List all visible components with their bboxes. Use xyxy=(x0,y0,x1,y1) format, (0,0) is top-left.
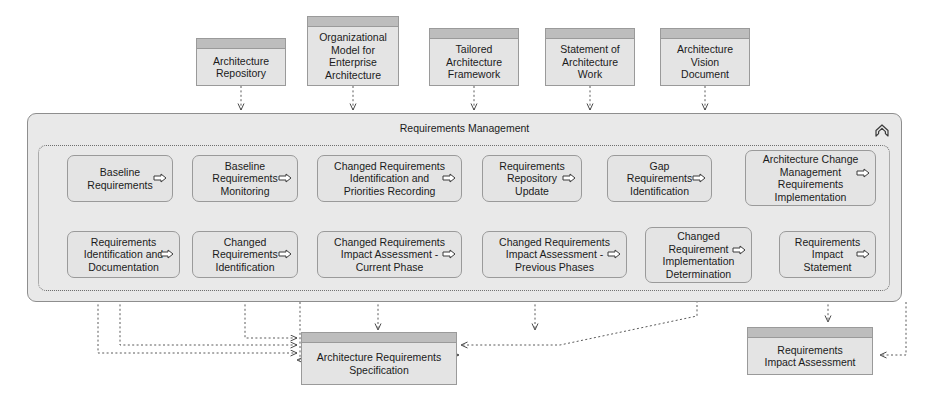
process-label: Requirements Identification and Document… xyxy=(84,236,163,274)
artifact-label: Architecture Repository xyxy=(197,49,285,85)
process-label: Architecture Change Management Requireme… xyxy=(763,153,859,203)
diagram-canvas: Architecture Repository Organizational M… xyxy=(0,0,941,401)
arrow-right-icon xyxy=(692,160,706,170)
arrow-right-icon xyxy=(732,232,746,242)
artifact-label: Organizational Model for Enterprise Arch… xyxy=(308,27,398,85)
process-label: Baseline Requirements xyxy=(87,166,152,191)
artifact-header-strip xyxy=(302,333,456,343)
process-label: Baseline Requirements Monitoring xyxy=(212,160,277,198)
artifact-to-group-edges xyxy=(241,86,705,110)
artifact-label: Architecture Vision Document xyxy=(661,39,749,85)
process-architecture-change-management-requirements-implementation[interactable]: Architecture Change Management Requireme… xyxy=(745,150,876,206)
artifact-architecture-vision-document[interactable]: Architecture Vision Document xyxy=(660,28,750,86)
process-label: Changed Requirements Impact Assessment -… xyxy=(499,236,610,274)
process-chevron-up-icon xyxy=(873,122,891,140)
artifact-header-strip xyxy=(546,29,634,39)
process-changed-requirements-impact-assessment-current-phase[interactable]: Changed Requirements Impact Assessment -… xyxy=(317,231,462,278)
artifact-header-strip xyxy=(308,17,398,27)
artifact-organizational-model[interactable]: Organizational Model for Enterprise Arch… xyxy=(307,16,399,86)
arrow-right-icon xyxy=(856,236,870,246)
process-label: Changed Requirements Identification and … xyxy=(334,160,445,198)
process-label: Gap Requirements Identification xyxy=(627,160,692,198)
arrow-right-icon xyxy=(562,160,576,170)
arrow-right-icon xyxy=(442,160,456,170)
artifact-label: Tailored Architecture Framework xyxy=(430,39,518,85)
arrow-right-icon xyxy=(160,236,174,246)
arrow-right-icon xyxy=(278,160,292,170)
process-gap-requirements-identification[interactable]: Gap Requirements Identification xyxy=(607,155,712,202)
process-baseline-requirements[interactable]: Baseline Requirements xyxy=(67,155,173,202)
artifact-header-strip xyxy=(661,29,749,39)
artifact-label: Architecture Requirements Specification xyxy=(302,343,456,384)
process-label: Changed Requirement Implementation Deter… xyxy=(663,230,735,280)
process-label: Requirements Impact Statement xyxy=(795,236,860,274)
artifact-header-strip xyxy=(197,39,285,49)
process-changed-requirements-identification-priorities[interactable]: Changed Requirements Identification and … xyxy=(317,155,462,202)
process-requirements-identification-documentation[interactable]: Requirements Identification and Document… xyxy=(67,231,180,278)
artifact-header-strip xyxy=(748,328,872,338)
process-requirements-impact-statement[interactable]: Requirements Impact Statement xyxy=(779,231,876,278)
process-changed-requirement-implementation-determination[interactable]: Changed Requirement Implementation Deter… xyxy=(645,227,752,283)
process-changed-requirements-identification[interactable]: Changed Requirements Identification xyxy=(192,231,298,278)
artifact-requirements-impact-assessment[interactable]: Requirements Impact Assessment xyxy=(747,327,873,375)
process-changed-requirements-impact-assessment-previous-phases[interactable]: Changed Requirements Impact Assessment -… xyxy=(482,231,627,278)
arrow-right-icon xyxy=(856,155,870,165)
artifact-tailored-architecture-framework[interactable]: Tailored Architecture Framework xyxy=(429,28,519,86)
artifact-header-strip xyxy=(430,29,518,39)
artifact-architecture-repository[interactable]: Architecture Repository xyxy=(196,38,286,86)
arrow-right-icon xyxy=(607,236,621,246)
arrow-right-icon xyxy=(153,160,167,170)
process-baseline-requirements-monitoring[interactable]: Baseline Requirements Monitoring xyxy=(192,155,298,202)
process-label: Changed Requirements Identification xyxy=(212,236,277,274)
process-requirements-repository-update[interactable]: Requirements Repository Update xyxy=(482,155,582,202)
artifact-label: Statement of Architecture Work xyxy=(546,39,634,85)
artifact-architecture-requirements-specification[interactable]: Architecture Requirements Specification xyxy=(301,332,457,385)
group-title: Requirements Management xyxy=(28,122,901,134)
process-label: Changed Requirements Impact Assessment -… xyxy=(334,236,445,274)
process-label: Requirements Repository Update xyxy=(499,160,564,198)
artifact-label: Requirements Impact Assessment xyxy=(748,338,872,374)
arrow-right-icon xyxy=(278,236,292,246)
artifact-statement-of-architecture-work[interactable]: Statement of Architecture Work xyxy=(545,28,635,86)
arrow-right-icon xyxy=(442,236,456,246)
